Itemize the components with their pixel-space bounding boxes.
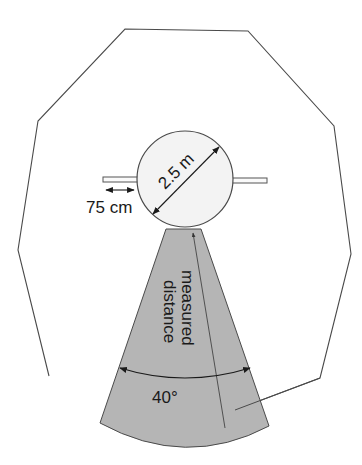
measured-label-line-2: distance — [160, 280, 179, 343]
bar-length-label: 75 cm — [86, 198, 132, 217]
measured-label-line-1: measured — [178, 270, 197, 346]
left-bar — [103, 177, 139, 182]
diagram-canvas: 2.5 m 75 cm measured distance 40° — [0, 0, 362, 465]
measured-distance-label: measured distance — [160, 270, 197, 346]
right-bar — [231, 178, 267, 183]
angle-label: 40° — [152, 388, 178, 407]
central-circle — [137, 131, 233, 227]
